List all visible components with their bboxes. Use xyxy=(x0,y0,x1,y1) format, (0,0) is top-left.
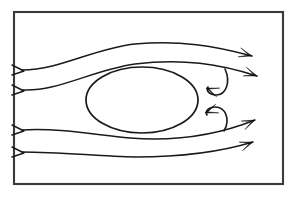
flow-diagram-figure: Streamline flow around an elliptical bod… xyxy=(0,0,296,197)
hatch-line xyxy=(0,0,125,6)
elliptical-body xyxy=(86,67,198,133)
flow-diagram-canvas: Streamline flow around an elliptical bod… xyxy=(0,0,296,197)
